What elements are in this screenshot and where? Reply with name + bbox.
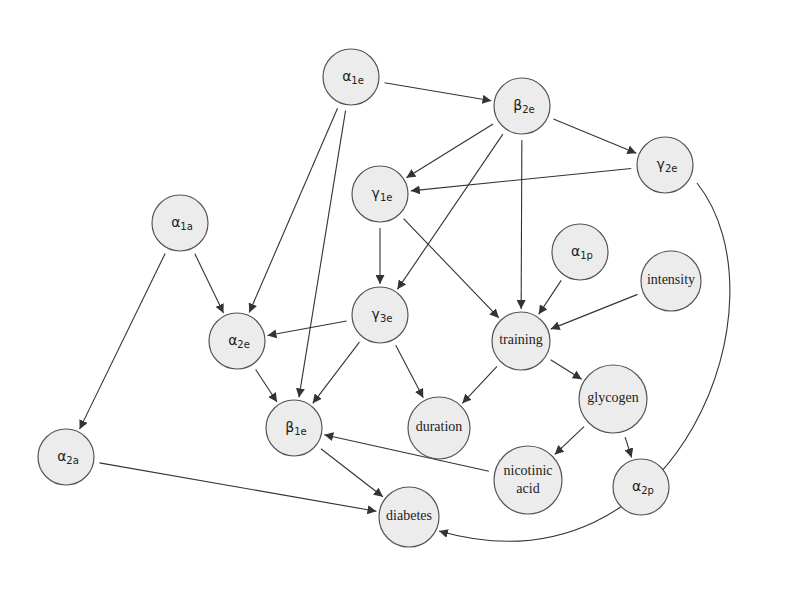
- edge-g3e-to-a2e: [267, 321, 346, 335]
- edge-a1p-to-training: [539, 280, 562, 314]
- node-g3e: γ3e: [352, 287, 408, 343]
- edge-glycogen-to-a2p: [625, 437, 631, 457]
- edge-training-to-duration: [462, 366, 497, 403]
- nodes-layer: α1eβ2eγ2eγ1eα1aα1pintensityγ3etrainingα2…: [38, 49, 701, 547]
- edge-a1e-to-b1e: [299, 111, 346, 398]
- node-glycogen: glycogen: [579, 365, 647, 433]
- edge-training-to-glycogen: [551, 360, 582, 380]
- node-intensity: intensity: [641, 251, 701, 311]
- node-diabetes: diabetes: [379, 487, 439, 547]
- node-a1p: α1p: [552, 224, 608, 280]
- node-label: nicotinic: [504, 463, 553, 478]
- node-a1e: α1e: [323, 49, 379, 105]
- node-b1e: β1e: [266, 400, 322, 456]
- node-label-line2: acid: [516, 481, 539, 496]
- edge-a1a-to-a2a: [80, 254, 166, 430]
- node-b2e: β2e: [494, 78, 550, 134]
- edge-g3e-to-b1e: [313, 342, 360, 403]
- bayesian-network-diagram: α1eβ2eγ2eγ1eα1aα1pintensityγ3etrainingα2…: [0, 0, 795, 589]
- node-a2p: α2p: [613, 459, 669, 515]
- edge-b2e-to-g3e: [397, 134, 502, 289]
- node-label: glycogen: [587, 390, 638, 405]
- node-label: training: [499, 332, 543, 347]
- edge-a1e-to-a2e: [249, 108, 337, 312]
- edge-glycogen-to-nicotinic: [555, 427, 584, 455]
- edge-b2e-to-training: [521, 140, 522, 309]
- node-circle: [494, 446, 562, 514]
- node-nicotinic: nicotinicacid: [494, 446, 562, 514]
- node-label: diabetes: [386, 508, 432, 523]
- edge-g2e-to-g1e: [411, 168, 631, 190]
- node-a1a: α1a: [152, 195, 208, 251]
- edge-a2e-to-b1e: [256, 369, 277, 402]
- edge-g1e-to-training: [404, 219, 499, 318]
- node-label: intensity: [647, 272, 695, 287]
- edge-b1e-to-diabetes: [321, 449, 383, 497]
- node-g2e: γ2e: [637, 137, 693, 193]
- edge-intensity-to-training: [551, 294, 638, 329]
- edge-a2a-to-diabetes: [99, 463, 376, 511]
- edge-g3e-to-duration: [396, 345, 424, 398]
- node-g1e: γ1e: [352, 166, 408, 222]
- edge-b2e-to-g1e: [406, 124, 493, 178]
- node-a2e: α2e: [209, 313, 265, 369]
- node-training: training: [492, 312, 550, 370]
- edge-a1a-to-a2e: [195, 254, 224, 313]
- node-label: duration: [416, 419, 463, 434]
- edge-a1e-to-b2e: [385, 83, 492, 101]
- edge-b2e-to-g2e: [553, 119, 636, 153]
- node-duration: duration: [408, 397, 470, 459]
- node-a2a: α2a: [38, 429, 94, 485]
